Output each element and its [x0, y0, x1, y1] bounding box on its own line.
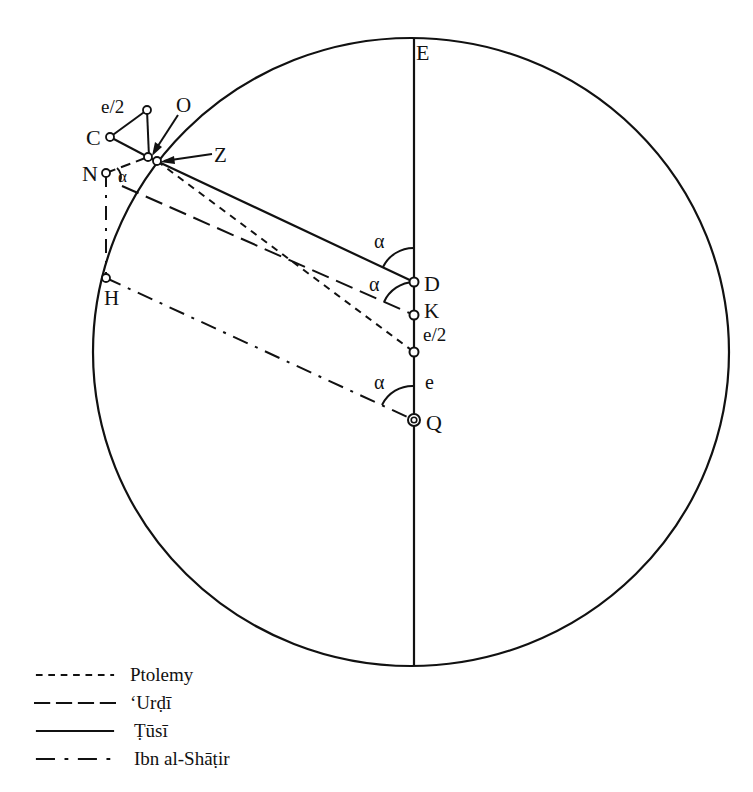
tusi-line	[148, 157, 414, 282]
label-e: E	[416, 40, 429, 65]
legend: Ptolemy ʻUrḍī Ṭūsī Ibn al-Shāṭir	[30, 662, 330, 774]
label-mid-q-e: e	[425, 371, 434, 393]
angle-label-n: α	[118, 167, 127, 186]
angle-label-d: α	[374, 230, 385, 252]
point-o	[144, 153, 152, 161]
point-z	[153, 157, 161, 165]
label-n: N	[82, 161, 98, 186]
long-dash-line-icon	[34, 701, 116, 705]
legend-item-ibn-al-shatir: Ibn al-Shāṭir	[30, 746, 330, 774]
label-h: H	[104, 286, 119, 310]
angle-label-q: α	[374, 371, 385, 393]
arrow-o-head	[152, 142, 162, 156]
ptolemy-line	[157, 161, 414, 352]
urdi-n-link	[106, 157, 148, 173]
dash-dot-line-icon	[34, 757, 116, 761]
point-c	[106, 133, 114, 141]
point-n	[102, 169, 110, 177]
label-triangle-e-half: e/2	[101, 96, 124, 117]
legend-item-tusi: Ṭūsī	[30, 718, 330, 746]
triangle-c-vertex	[110, 137, 148, 157]
label-d: D	[424, 271, 440, 296]
ibn-al-shatir-line	[106, 278, 414, 420]
legend-item-urdi: ʻUrḍī	[30, 690, 330, 718]
legend-label-urdi: ʻUrḍī	[130, 692, 171, 714]
label-k: K	[424, 299, 439, 323]
solid-line-icon	[34, 729, 116, 733]
label-z: Z	[214, 143, 227, 167]
urdi-line	[122, 186, 414, 315]
point-k	[410, 311, 419, 320]
label-o: O	[176, 93, 191, 117]
point-triangle-top	[143, 106, 151, 114]
legend-label-ibn-al-shatir: Ibn al-Shāṭir	[134, 748, 230, 770]
legend-label-ptolemy: Ptolemy	[130, 664, 193, 686]
point-mid	[410, 348, 419, 357]
label-k-mid-e-half: e/2	[423, 324, 446, 345]
short-dash-line-icon	[34, 673, 116, 677]
legend-item-ptolemy: Ptolemy	[30, 662, 330, 690]
triangle-top-vertex	[147, 110, 149, 157]
legend-label-tusi: Ṭūsī	[134, 720, 168, 742]
angle-label-k: α	[369, 273, 380, 295]
point-q-inner	[411, 417, 417, 423]
angle-arc-q	[382, 386, 414, 405]
label-c: C	[86, 125, 101, 150]
point-d	[410, 278, 419, 287]
angle-arc-d	[383, 248, 414, 267]
point-h	[102, 274, 110, 282]
label-q: Q	[426, 410, 442, 435]
